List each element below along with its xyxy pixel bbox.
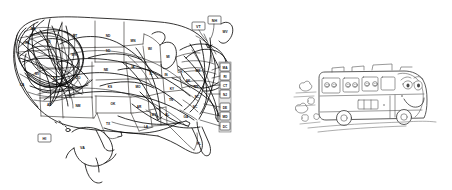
state-label-sc: SC <box>193 105 198 109</box>
state-label-wv: AK <box>186 79 191 83</box>
dc-label: DC <box>223 125 228 129</box>
state-label-mi: MI <box>166 55 170 59</box>
bus-window-4 <box>381 77 395 90</box>
nh-label: NH <box>212 19 218 23</box>
de-label: DE <box>223 106 227 110</box>
bus-nose <box>401 95 403 97</box>
callout-item-ma[interactable]: MA <box>220 63 230 71</box>
state-label-ut: UT <box>53 77 57 81</box>
ma-label: MA <box>223 66 229 70</box>
state-label-tn: TN <box>169 98 174 102</box>
state-label-sd: SD <box>106 49 111 53</box>
bus-eye-right <box>414 81 422 90</box>
state-label-al: AL <box>165 113 169 117</box>
state-label-or: OR <box>25 41 30 45</box>
callout-item-ri[interactable]: RI <box>220 72 230 80</box>
state-label-wi: WI <box>148 47 152 51</box>
illustration-svg: HI VA VT NH WV <box>0 0 452 190</box>
state-label-mn: MN <box>131 39 137 43</box>
callout-item-md[interactable]: MD <box>220 112 230 120</box>
ct-label: CT <box>223 84 227 88</box>
callout-item-nj[interactable]: NJ <box>220 90 230 98</box>
state-label-ga: GA <box>184 115 189 119</box>
state-label-nd: ND <box>106 34 111 38</box>
state-label-ks: KS <box>108 85 112 89</box>
state-label-ar: AR <box>137 105 142 109</box>
state-label-ok: OK <box>111 102 116 106</box>
bus-side-panel <box>358 100 378 109</box>
callout-item-dc[interactable]: DC <box>220 122 230 130</box>
state-label-mt: MT <box>73 34 78 38</box>
state-label-la: LA <box>144 125 149 129</box>
callout-item-de[interactable]: DE <box>220 103 230 111</box>
state-label-il: IL <box>150 72 153 76</box>
callout-item-ct[interactable]: CT <box>220 81 230 89</box>
ri-label: RI <box>223 75 226 79</box>
md-label: MD <box>223 115 229 119</box>
state-label-wy: WY <box>71 53 77 57</box>
state-label-co: CO <box>76 76 81 80</box>
state-label-az: AZ <box>47 103 51 107</box>
state-label-pa: ME <box>196 69 201 73</box>
state-label-ms: MS <box>152 113 157 117</box>
state-label-ca: CA <box>20 83 25 87</box>
state-label-ne: NE <box>104 68 108 72</box>
bus-eye-left <box>403 81 412 89</box>
nj-label: NJ <box>223 93 227 97</box>
hawaii-label: HI <box>43 137 47 141</box>
state-label-nm: NM <box>76 104 81 108</box>
me-label: WV <box>222 30 228 34</box>
state-label-wa: WA <box>30 27 36 31</box>
state-label-nc: NC <box>195 95 200 99</box>
state-label-oh: OH <box>178 70 183 74</box>
illustration-canvas: HI VA VT NH WV <box>0 0 452 190</box>
state-label-mo: MO <box>135 85 141 89</box>
alaska-label: VA <box>80 146 85 150</box>
vt-label: VT <box>196 25 201 29</box>
